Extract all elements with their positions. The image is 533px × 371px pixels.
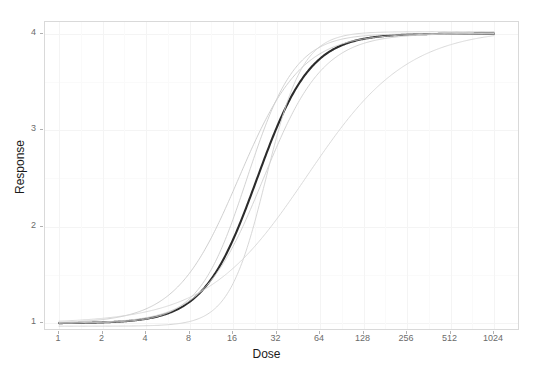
x-tick-mark (232, 331, 233, 334)
x-tick-label: 8 (186, 334, 191, 343)
y-axis-title: Response (13, 117, 27, 217)
y-tick-mark (40, 226, 43, 227)
curve-bootstrap-curve-4 (59, 34, 494, 323)
x-tick-mark (406, 331, 407, 334)
x-tick-label: 4 (142, 334, 147, 343)
y-tick-mark (40, 129, 43, 130)
x-tick-label: 1024 (483, 334, 503, 343)
x-axis-title: Dose (0, 347, 533, 361)
plot-panel (44, 21, 519, 330)
y-tick-label: 2 (20, 221, 36, 230)
x-tick-mark (319, 331, 320, 334)
x-tick-label: 64 (314, 334, 324, 343)
y-tick-label: 4 (20, 28, 36, 37)
curve-fitted-mean-curve (59, 34, 494, 323)
x-tick-label: 2 (99, 334, 104, 343)
x-tick-label: 256 (398, 334, 413, 343)
x-tick-mark (450, 331, 451, 334)
curve-bootstrap-curve-5 (59, 36, 494, 321)
curve-bootstrap-curve-2 (59, 34, 494, 324)
curve-bootstrap-curve-1 (59, 34, 494, 323)
x-tick-mark (102, 331, 103, 334)
curve-layer (45, 22, 519, 330)
curve-bootstrap-curve-3 (59, 32, 494, 327)
x-tick-label: 16 (227, 334, 237, 343)
x-tick-label: 1 (55, 334, 60, 343)
x-tick-label: 32 (270, 334, 280, 343)
chart-root: 1234 12481632641282565121024 Dose Respon… (0, 0, 533, 371)
x-tick-mark (363, 331, 364, 334)
x-tick-mark (58, 331, 59, 334)
x-tick-mark (189, 331, 190, 334)
x-tick-label: 128 (355, 334, 370, 343)
x-tick-label: 512 (442, 334, 457, 343)
y-tick-label: 1 (20, 317, 36, 326)
x-tick-mark (493, 331, 494, 334)
y-tick-mark (40, 33, 43, 34)
y-tick-mark (40, 322, 43, 323)
x-tick-mark (145, 331, 146, 334)
x-tick-mark (276, 331, 277, 334)
